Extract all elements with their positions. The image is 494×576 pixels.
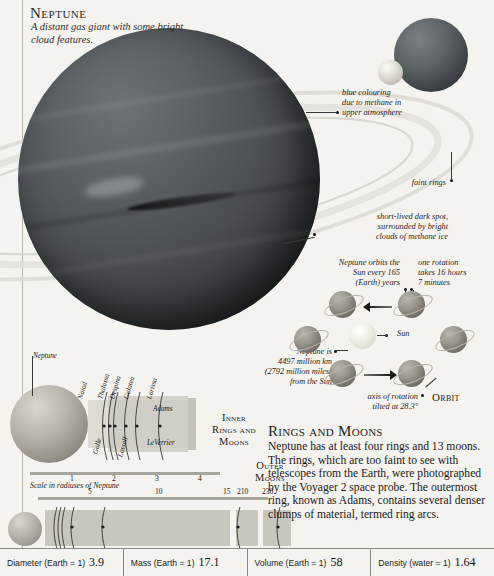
page-subtitle: A distant gas giant with some bright clo… xyxy=(31,21,191,46)
data-label-density: Density (water = 1) xyxy=(378,558,450,568)
inner-ring-arcs xyxy=(85,392,195,462)
data-value-volume: 58 xyxy=(330,555,342,570)
data-value-diameter: 3.9 xyxy=(89,555,104,570)
outer-moon-markers xyxy=(48,505,263,553)
callout-leader-axis-tilt xyxy=(425,378,436,388)
callout-dot-axis-tilt xyxy=(421,394,424,397)
page-title: Neptune xyxy=(30,5,87,22)
neptune-inset-image xyxy=(394,18,468,92)
callout-leader-distance xyxy=(336,350,348,351)
callout-orbit-period: Neptune orbits the Sun every 165 (Earth)… xyxy=(300,258,400,288)
inner-leader-neptune xyxy=(32,356,33,396)
orbit-arrowhead-bottom xyxy=(390,370,397,380)
inner-label-ring-leverrier: LeVerrier xyxy=(147,439,175,447)
inner-label-ring-adams: Adams xyxy=(153,405,173,413)
outer-scale-tick-5: 5 xyxy=(88,487,92,496)
data-value-mass: 17.1 xyxy=(199,555,220,570)
data-label-volume: Volume (Earth = 1) xyxy=(255,558,327,568)
callout-blue-colouring: blue colouring due to methane in upper a… xyxy=(342,88,457,118)
rings-moons-body: Neptune has at least four rings and 13 m… xyxy=(268,440,490,522)
outer-scale-tick-210: 210 xyxy=(237,487,248,496)
callout-rotation-period: one rotation takes 16 hours 7 minutes xyxy=(418,258,494,288)
callout-faint-rings: faint rings xyxy=(382,178,446,188)
data-cell-volume: Volume (Earth = 1) 58 xyxy=(248,549,372,576)
callout-dark-spot: short-lived dark spot, surrounded by bri… xyxy=(320,212,448,242)
inner-scale-tick-3: 3 xyxy=(155,474,159,483)
outer-diagram-neptune xyxy=(8,512,42,546)
neptune-globe-image xyxy=(18,28,320,330)
callout-axis-tilt: axis of rotation tilted at 28.3° xyxy=(330,392,418,412)
callout-leader-faint-rings xyxy=(451,152,452,180)
inner-rings-moons-heading: Inner Rings and Moons xyxy=(193,412,275,448)
orbit-heading: Orbit xyxy=(432,391,460,403)
sun-graphic xyxy=(349,322,376,349)
inner-label-neptune: Neptune xyxy=(33,352,57,360)
scale-caption: Scale in radiuses of Neptune xyxy=(30,481,119,490)
data-value-density: 1.64 xyxy=(455,555,476,570)
rings-moons-heading: Rings and Moons xyxy=(268,423,383,440)
outer-scale-tick-15: 15 xyxy=(223,487,231,496)
callout-leader-blue-colouring xyxy=(306,112,336,113)
label-sun: Sun xyxy=(397,329,427,339)
inner-scale-bar xyxy=(30,472,220,475)
orbit-arrow-bottom xyxy=(364,374,390,376)
data-cell-diameter: Diameter (Earth = 1) 3.9 xyxy=(0,549,124,576)
orbit-arrow-top xyxy=(368,306,392,308)
outer-scale-tick-10: 10 xyxy=(155,487,163,496)
data-cell-mass: Mass (Earth = 1) 17.1 xyxy=(124,549,248,576)
data-label-mass: Mass (Earth = 1) xyxy=(131,558,195,568)
data-label-diameter: Diameter (Earth = 1) xyxy=(7,558,85,568)
callout-dot-blue-colouring xyxy=(336,111,339,114)
callout-distance-from-sun: Neptune is 4497 million km (2792 million… xyxy=(238,347,332,387)
inner-scale-tick-4: 4 xyxy=(198,474,202,483)
callout-leader-sun xyxy=(377,335,387,336)
orbit-arrowhead-top xyxy=(363,302,370,312)
outer-scale-bar xyxy=(38,497,268,500)
triton-inset-image xyxy=(378,60,403,85)
planet-data-bar: Diameter (Earth = 1) 3.9 Mass (Earth = 1… xyxy=(0,548,494,576)
data-cell-density: Density (water = 1) 1.64 xyxy=(371,549,494,576)
